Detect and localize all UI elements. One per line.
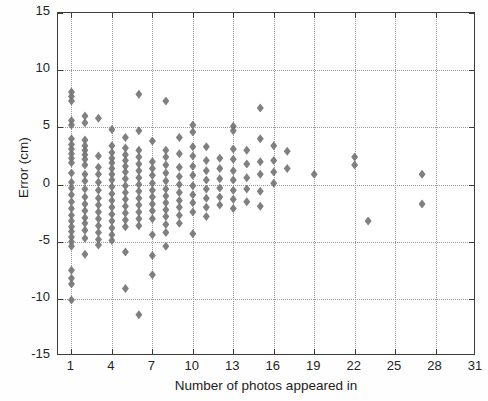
y-axis-tick (58, 70, 63, 71)
data-point-marker (68, 97, 75, 106)
x-axis-tick (112, 13, 113, 18)
data-point-marker (189, 207, 196, 216)
data-point-marker (203, 142, 210, 151)
data-point-marker (230, 145, 237, 154)
data-point-marker (176, 133, 183, 142)
gridline-vertical (395, 13, 396, 354)
data-point-marker (216, 201, 223, 210)
x-axis-label: Number of photos appeared in (57, 378, 475, 393)
data-point-marker (95, 151, 102, 160)
x-axis-tick-label: 28 (415, 358, 455, 373)
data-point-marker (243, 146, 250, 155)
data-point-marker (189, 171, 196, 180)
data-point-marker (149, 206, 156, 215)
data-point-marker (122, 133, 129, 142)
data-point-marker (216, 193, 223, 202)
x-axis-tick (436, 13, 437, 18)
data-point-marker (257, 202, 264, 211)
data-point-marker (68, 295, 75, 304)
data-point-marker (162, 212, 169, 221)
data-point-marker (149, 251, 156, 260)
x-axis-tick (395, 349, 396, 354)
data-point-marker (270, 156, 277, 165)
data-point-marker (270, 141, 277, 150)
y-axis-tick (469, 299, 474, 300)
data-point-marker (81, 118, 88, 127)
y-axis-tick-label: 15 (4, 3, 50, 18)
x-axis-tick (274, 349, 275, 354)
gridline-horizontal (58, 70, 474, 71)
data-point-marker (189, 198, 196, 207)
data-point-marker (419, 199, 426, 208)
data-point-marker (122, 222, 129, 231)
x-axis-tick (436, 349, 437, 354)
data-point-marker (189, 151, 196, 160)
data-point-marker (122, 247, 129, 256)
data-point-marker (162, 220, 169, 229)
data-point-marker (351, 153, 358, 162)
data-point-marker (230, 175, 237, 184)
x-axis-tick-label: 22 (334, 358, 374, 373)
data-point-marker (68, 169, 75, 178)
data-point-marker (176, 149, 183, 158)
y-axis-tick-label: 10 (4, 60, 50, 75)
data-point-marker (284, 164, 291, 173)
gridline-horizontal (58, 242, 474, 243)
data-point-marker (419, 170, 426, 179)
data-point-marker (135, 90, 142, 99)
x-axis-tick (274, 13, 275, 18)
data-point-marker (68, 242, 75, 251)
data-point-marker (95, 114, 102, 123)
x-axis-tick (193, 13, 194, 18)
data-point-marker (135, 221, 142, 230)
data-point-marker (81, 226, 88, 235)
y-axis-tick (469, 13, 474, 14)
data-point-marker (203, 166, 210, 175)
data-point-marker (243, 197, 250, 206)
x-axis-tick-label: 4 (91, 358, 131, 373)
data-point-marker (216, 174, 223, 183)
data-point-marker (176, 219, 183, 228)
y-axis-tick (58, 242, 63, 243)
data-point-marker (189, 142, 196, 151)
data-point-marker (216, 154, 223, 163)
x-axis-tick (395, 13, 396, 18)
x-axis-tick (314, 349, 315, 354)
data-point-marker (203, 185, 210, 194)
data-point-marker (257, 157, 264, 166)
plot-area (57, 12, 475, 355)
data-point-marker (68, 279, 75, 288)
data-point-marker (230, 204, 237, 213)
data-point-marker (243, 173, 250, 182)
data-point-marker (176, 163, 183, 172)
data-point-marker (243, 159, 250, 168)
y-axis-tick-label: -15 (4, 346, 50, 361)
data-point-marker (189, 162, 196, 171)
x-axis-tick (71, 13, 72, 18)
x-axis-tick (233, 349, 234, 354)
x-axis-tick (112, 349, 113, 354)
data-point-marker (189, 229, 196, 238)
data-point-marker (230, 166, 237, 175)
data-point-marker (149, 230, 156, 239)
data-point-marker (311, 170, 318, 179)
gridline-horizontal (58, 185, 474, 186)
data-point-marker (216, 164, 223, 173)
gridline-vertical (355, 13, 356, 354)
x-axis-tick (193, 349, 194, 354)
data-point-marker (68, 158, 75, 167)
data-point-marker (162, 242, 169, 251)
y-axis-tick (469, 242, 474, 243)
axes-container: 1471013161922252831151050-5-10-15 Number… (0, 0, 488, 401)
data-point-marker (176, 188, 183, 197)
data-point-marker (189, 181, 196, 190)
x-axis-tick (152, 13, 153, 18)
data-point-marker (176, 203, 183, 212)
data-point-marker (95, 186, 102, 195)
y-axis-tick (58, 127, 63, 128)
y-axis-tick (58, 185, 63, 186)
data-point-marker (108, 236, 115, 245)
data-point-marker (162, 169, 169, 178)
data-point-marker (122, 284, 129, 293)
y-axis-label: Error (cm) (16, 98, 31, 238)
